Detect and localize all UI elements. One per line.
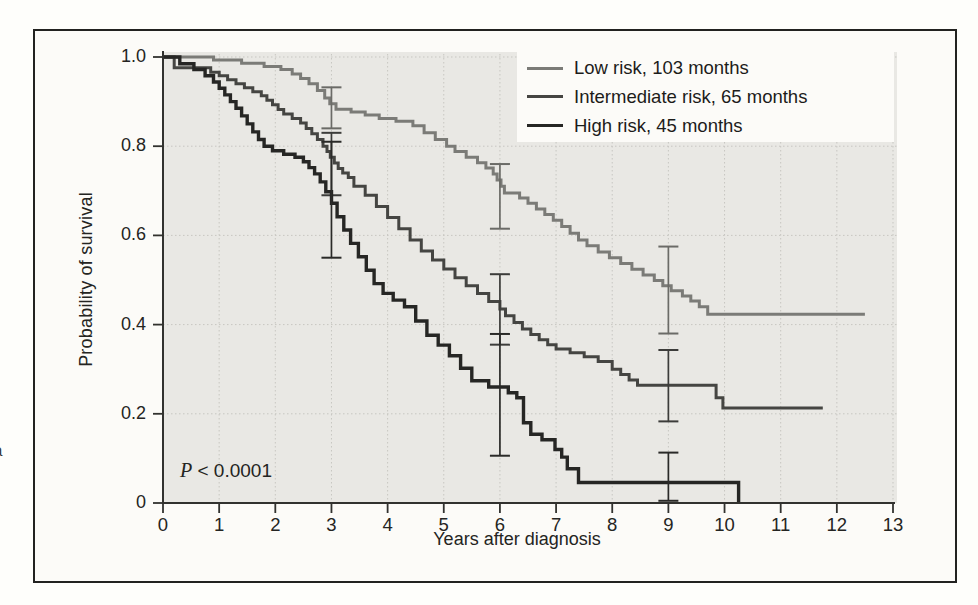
p-value-symbol: P: [180, 459, 192, 481]
p-value-annotation: P < 0.0001: [180, 459, 272, 482]
intermediate-risk-line-swatch: [527, 95, 563, 98]
y-tick-label-1.0: 1.0: [98, 46, 146, 67]
y-tick-label-0.6: 0.6: [98, 224, 146, 245]
y-tick-label-0.4: 0.4: [98, 314, 146, 335]
x-tick-label-13: 13: [873, 514, 913, 536]
x-tick-label-5: 5: [424, 514, 464, 536]
legend-label-low-risk: Low risk, 103 months: [574, 57, 749, 79]
y-tick-label-0.2: 0.2: [98, 403, 146, 424]
legend-label-intermediate-risk: Intermediate risk, 65 months: [574, 86, 807, 108]
x-tick-label-9: 9: [648, 514, 688, 536]
x-tick-label-2: 2: [255, 514, 295, 536]
x-tick-label-4: 4: [368, 514, 408, 536]
x-tick-label-8: 8: [592, 514, 632, 536]
y-tick-label-0.8: 0.8: [98, 135, 146, 156]
y-tick-label-0: 0: [98, 492, 146, 513]
x-tick-label-1: 1: [199, 514, 239, 536]
legend: Low risk, 103 months Intermediate risk, …: [517, 52, 894, 142]
x-tick-label-12: 12: [817, 514, 857, 536]
x-tick-label-7: 7: [536, 514, 576, 536]
legend-row-high-risk: High risk, 45 months: [527, 115, 894, 137]
x-tick-label-0: 0: [143, 514, 183, 536]
legend-row-intermediate-risk: Intermediate risk, 65 months: [527, 86, 894, 108]
high-risk-line-swatch: [527, 124, 563, 127]
low-risk-line-swatch: [527, 67, 563, 70]
x-tick-label-10: 10: [705, 514, 745, 536]
p-value-text: < 0.0001: [192, 460, 272, 481]
edge-fragment-1: a: [0, 441, 2, 461]
x-tick-label-6: 6: [480, 514, 520, 536]
x-tick-label-11: 11: [761, 514, 801, 536]
x-tick-label-3: 3: [311, 514, 351, 536]
y-axis-title: Probability of survival: [76, 80, 97, 480]
legend-label-high-risk: High risk, 45 months: [574, 115, 743, 137]
legend-row-low-risk: Low risk, 103 months: [527, 57, 894, 79]
